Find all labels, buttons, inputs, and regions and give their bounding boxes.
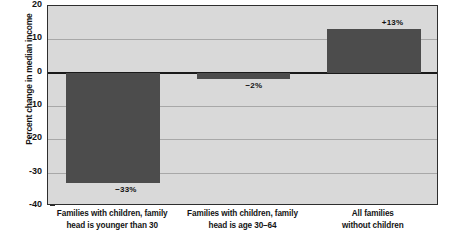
category-label-line: Families with children, family — [177, 208, 307, 220]
y-tick-label: -20 — [12, 133, 42, 142]
y-tick-mark — [50, 205, 55, 206]
category-label-line: head is younger than 30 — [47, 220, 177, 232]
category-label-line: head is age 30–64 — [177, 220, 307, 232]
y-tick-label: -40 — [12, 200, 42, 209]
category-label: Families with children, familyhead is yo… — [47, 208, 177, 232]
category-label-line: Families with children, family — [47, 208, 177, 220]
y-tick-label: 10 — [12, 33, 42, 42]
bar-value-label: −33% — [115, 185, 136, 194]
category-label-line: All families — [308, 208, 438, 220]
bar-value-label: −2% — [246, 81, 263, 90]
x-axis-category-labels: Families with children, familyhead is yo… — [47, 208, 438, 242]
y-tick-label: -10 — [12, 100, 42, 109]
y-tick-label: -30 — [12, 167, 42, 176]
bar — [327, 29, 421, 72]
category-label-line: without children — [308, 220, 438, 232]
y-tick-label: 20 — [12, 0, 42, 9]
bar-chart: Percent change in median income 20100-10… — [0, 0, 451, 242]
bar-value-label: +13% — [382, 18, 403, 27]
bar — [66, 73, 160, 183]
y-axis-tick-labels: 20100-10-20-30-40 — [8, 0, 42, 242]
plot-area: −33%−2%+13% — [47, 5, 438, 205]
category-label: Families with children, familyhead is ag… — [177, 208, 307, 232]
y-tick-label: 0 — [12, 67, 42, 76]
bar — [197, 73, 291, 80]
category-label: All familieswithout children — [308, 208, 438, 232]
